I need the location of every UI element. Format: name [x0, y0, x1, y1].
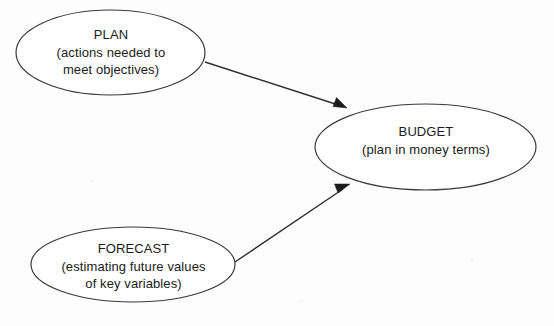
edge-plan-to-budget	[205, 62, 347, 108]
edge-forecast-to-budget-arrowhead	[335, 184, 351, 193]
edge-forecast-to-budget	[235, 184, 350, 262]
edge-plan-to-budget-line	[205, 62, 340, 106]
node-forecast-ellipse[interactable]	[31, 227, 235, 302]
edge-forecast-to-budget-line	[235, 189, 343, 262]
scan-speck	[90, 180, 93, 182]
scan-speck	[470, 258, 474, 261]
scan-speck	[300, 300, 303, 302]
node-plan-ellipse[interactable]	[16, 10, 205, 95]
edge-plan-to-budget-arrowhead	[333, 98, 347, 109]
diagram-svg	[0, 0, 554, 326]
node-budget-ellipse[interactable]	[315, 104, 536, 190]
diagram-canvas: PLAN (actions needed to meet objectives)…	[0, 0, 554, 326]
